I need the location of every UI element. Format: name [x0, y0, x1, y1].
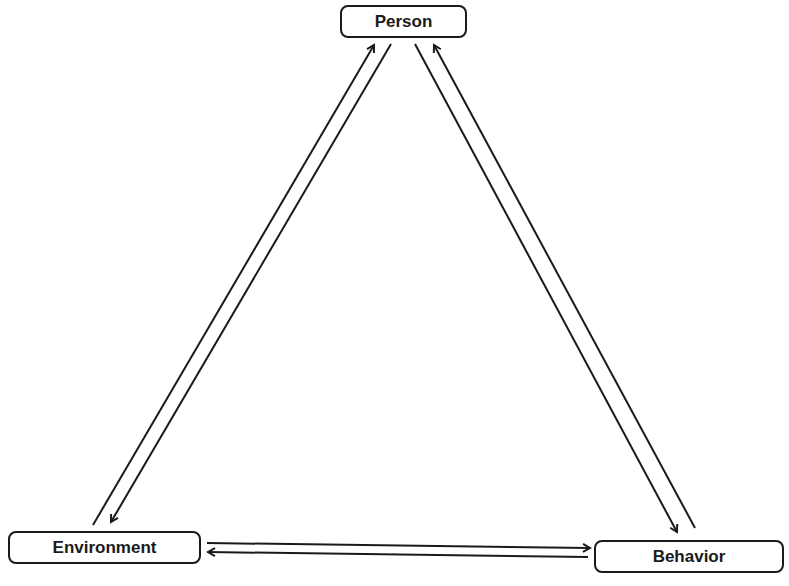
- arrow-person-to-behavior: [415, 44, 677, 532]
- arrow-behavior-to-environment: [208, 552, 588, 557]
- arrow-environment-to-behavior: [207, 543, 590, 548]
- node-environment: Environment: [8, 531, 201, 564]
- diagram-canvas: Person Environment Behavior: [0, 0, 789, 586]
- node-environment-label: Environment: [53, 538, 157, 558]
- arrows-layer: [0, 0, 789, 586]
- node-person: Person: [340, 5, 467, 38]
- arrow-environment-to-person: [93, 45, 374, 525]
- arrow-behavior-to-person: [434, 45, 695, 528]
- node-behavior: Behavior: [594, 540, 784, 573]
- node-person-label: Person: [375, 12, 433, 32]
- node-behavior-label: Behavior: [653, 547, 726, 567]
- arrow-person-to-environment: [111, 44, 391, 522]
